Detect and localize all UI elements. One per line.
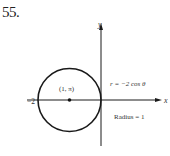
radius-label: Radius = 1 (114, 113, 145, 121)
x-axis-arrow-icon (155, 98, 162, 102)
tick-label-neg-2: −2 (27, 97, 35, 106)
polar-graph: y x −2 (1, π) r = −2 cos θ Radius = 1 (0, 0, 170, 156)
x-axis-label: x (163, 96, 168, 105)
equation-label: r = −2 cos θ (110, 80, 146, 88)
y-axis-label: y (97, 20, 102, 29)
center-point-label: (1, π) (59, 85, 75, 93)
center-point (68, 98, 72, 102)
